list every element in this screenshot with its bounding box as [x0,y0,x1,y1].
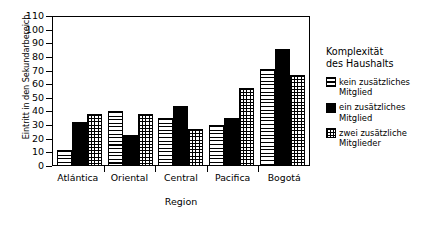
legend-title: Komplexität des Haushalts [326,46,430,70]
legend-items: kein zusätzliches Mitgliedein zusätzlich… [326,77,430,149]
legend-title-line-1: Komplexität [326,46,430,58]
y-axis-tick-label: 90 [32,39,44,49]
bar [173,106,188,166]
legend-swatch-icon [326,77,336,87]
bar [260,69,275,166]
bar [209,125,224,166]
y-axis-tick-label: 40 [32,107,44,117]
bar [57,150,72,166]
bar [188,129,203,166]
bar [275,49,290,166]
y-axis-tick-label: 110 [26,11,44,21]
bar-group [206,16,257,166]
bar-group [54,16,105,166]
y-axis-tick-label: 100 [26,25,44,35]
bar [138,114,153,166]
bar [87,114,102,166]
y-axis-tick-label: 0 [38,161,44,171]
bar [239,88,254,166]
x-axis-labels: AtlánticaOrientalCentralPacificaBogotá [52,172,310,183]
chart-container: Eintritt in den Sekundarbereich 01020304… [0,0,430,230]
legend-item[interactable]: zwei zusätzliche Mitglieder [326,128,430,149]
legend-item-label: kein zusätzliches Mitglied [339,77,430,98]
y-axis-tick-label: 10 [32,148,44,158]
legend-item[interactable]: ein zusätzliches Mitglied [326,102,430,123]
x-axis-tick-label: Central [155,172,207,183]
bar-group [257,16,308,166]
y-axis-tick-label: 30 [32,120,44,130]
bar [123,135,138,166]
bar [158,118,173,166]
bar [72,122,87,166]
x-axis-title: Region [52,196,310,207]
bar [224,118,239,166]
bar-group [156,16,207,166]
plot-area: 0102030405060708090100110 [52,16,310,166]
x-axis-tick-label: Atlántica [52,172,104,183]
y-axis-tick-label: 50 [32,93,44,103]
y-axis-tick-label: 20 [32,134,44,144]
legend-title-line-2: des Haushalts [326,58,430,70]
y-axis-tick [46,166,52,167]
legend-swatch-icon [326,128,336,138]
bar [290,75,305,166]
legend-item-label: zwei zusätzliche Mitglieder [339,128,430,149]
legend: Komplexität des Haushalts kein zusätzlic… [326,46,430,153]
y-axis-tick-label: 70 [32,66,44,76]
y-axis-tick-label: 80 [32,52,44,62]
bar [108,111,123,166]
legend-swatch-icon [326,103,336,113]
bar-group [105,16,156,166]
x-axis-tick-label: Pacifica [207,172,259,183]
legend-item[interactable]: kein zusätzliches Mitglied [326,77,430,98]
bar-groups [52,16,310,166]
legend-item-label: ein zusätzliches Mitglied [339,102,430,123]
x-axis-tick-label: Bogotá [258,172,310,183]
x-axis-tick-label: Oriental [104,172,156,183]
y-axis-tick-label: 60 [32,79,44,89]
